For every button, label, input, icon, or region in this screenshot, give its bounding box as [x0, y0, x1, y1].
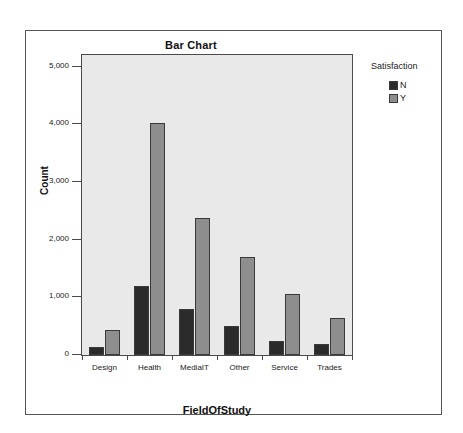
x-tick [307, 355, 308, 360]
y-tick: 4,000 [72, 123, 82, 124]
bar-trades-n [314, 344, 330, 355]
legend-label-n: N [400, 80, 407, 90]
x-tick [82, 355, 83, 360]
chart-legend: Satisfaction NY [371, 61, 446, 106]
legend-swatch-y [389, 94, 398, 103]
bar-design-n [89, 347, 105, 355]
y-tick-label: 0 [65, 349, 69, 358]
bar-service-y [285, 294, 301, 355]
x-tick-label-mediait: MediaIT [180, 363, 209, 372]
bar-other-n [224, 326, 240, 355]
x-tick [352, 355, 353, 360]
y-tick-label: 5,000 [49, 61, 69, 70]
bar-health-y [150, 123, 166, 355]
x-axis-label: FieldOfStudy [81, 404, 353, 416]
y-tick-label: 1,000 [49, 291, 69, 300]
plot-area: Count 01,0002,0003,0004,0005,000 DesignH… [81, 54, 353, 356]
bar-mediait-y [195, 218, 211, 355]
bar-health-n [134, 286, 150, 355]
bar-other-y [240, 257, 256, 355]
x-tick-label-other: Other [229, 363, 249, 372]
bar-design-y [105, 330, 121, 355]
y-tick: 0 [72, 354, 82, 355]
x-tick [127, 355, 128, 360]
chart-title: Bar Chart [26, 39, 356, 51]
x-tick-label-service: Service [271, 363, 298, 372]
y-tick: 2,000 [72, 239, 82, 240]
x-tick [217, 355, 218, 360]
x-tick [172, 355, 173, 360]
y-tick: 5,000 [72, 66, 82, 67]
legend-item-y[interactable]: Y [389, 93, 446, 103]
y-tick-label: 2,000 [49, 234, 69, 243]
legend-label-y: Y [400, 93, 406, 103]
chart-frame: Bar Chart Count 01,0002,0003,0004,0005,0… [25, 30, 442, 415]
bars-layer [82, 55, 352, 355]
bar-service-n [269, 341, 285, 355]
legend-swatch-n [389, 81, 398, 90]
x-tick-label-design: Design [92, 363, 117, 372]
y-tick-label: 4,000 [49, 118, 69, 127]
x-tick [262, 355, 263, 360]
y-axis-label: Count [39, 166, 50, 195]
y-tick: 3,000 [72, 181, 82, 182]
x-tick-label-trades: Trades [317, 363, 342, 372]
legend-title: Satisfaction [371, 61, 446, 71]
x-tick-label-health: Health [138, 363, 161, 372]
y-tick: 1,000 [72, 296, 82, 297]
y-tick-label: 3,000 [49, 176, 69, 185]
legend-item-n[interactable]: N [389, 80, 446, 90]
bar-mediait-n [179, 309, 195, 355]
bar-trades-y [330, 318, 346, 356]
legend-items: NY [371, 80, 446, 103]
